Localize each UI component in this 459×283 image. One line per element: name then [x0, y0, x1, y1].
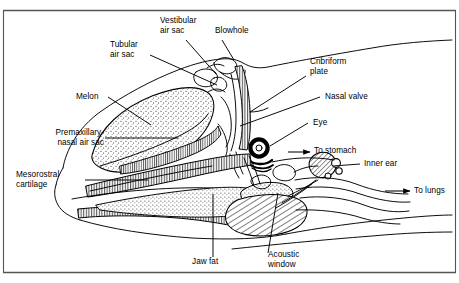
larynx-line-2 [296, 187, 410, 202]
label-melon: Melon [76, 92, 99, 102]
blowhole [214, 58, 237, 74]
label-to-lungs: To lungs [414, 186, 445, 196]
label-cribriform-plate: Cribriform plate [310, 57, 346, 76]
leader-tubular-air-sac [150, 55, 217, 85]
label-vestibular-air-sac: Vestibular air sac [160, 16, 196, 35]
throat-outline [286, 215, 452, 234]
anatomical-figure: Vestibular air sac Blowhole Tubular air … [0, 0, 459, 283]
eye [247, 139, 273, 171]
snout-tip [55, 185, 80, 220]
leader-eye [270, 123, 308, 146]
label-tubular-air-sac: Tubular air sac [110, 40, 138, 59]
label-mesorostral-cartilage: Mesorostral cartilage [16, 170, 59, 189]
nasal-passage [235, 66, 250, 150]
label-nasal-valve: Nasal valve [325, 92, 368, 102]
leader-vestibular-air-sac [186, 40, 216, 74]
label-jaw-fat: Jaw fat [192, 257, 218, 267]
label-premaxillary-nasal-air-sac: Premaxillary- nasal air sac [18, 128, 104, 147]
larynx-line-3 [300, 197, 409, 212]
tympano-periotic-bone [226, 195, 308, 236]
leader-blowhole [222, 40, 234, 60]
label-eye: Eye [313, 118, 327, 128]
pterygoid-sac [273, 165, 295, 181]
nasal-passage-wall [231, 74, 236, 151]
label-inner-ear: Inner ear [364, 159, 397, 169]
larynx-line-4 [296, 210, 400, 224]
label-acoustic-window: Acoustic window [268, 250, 299, 269]
label-to-stomach: To stomach [314, 146, 356, 156]
leader-cribriform-plate [250, 76, 306, 112]
label-blowhole: Blowhole [215, 26, 249, 36]
